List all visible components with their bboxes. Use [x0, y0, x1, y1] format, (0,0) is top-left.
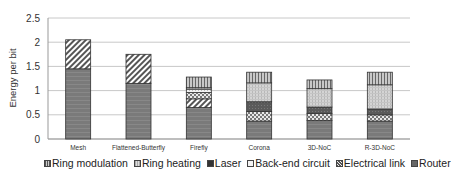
segment-electrical-link — [307, 113, 332, 120]
y-tick-label: 1.5 — [26, 61, 40, 72]
bar-corona — [247, 72, 272, 139]
legend-swatch-icon — [411, 160, 418, 167]
segment-ring-heating — [247, 83, 272, 102]
segment-router — [247, 121, 272, 139]
segment-laser — [367, 109, 392, 115]
x-tick-label: Firefly — [190, 144, 208, 152]
y-tick-label: 0 — [34, 134, 40, 145]
segment-router — [66, 69, 91, 139]
segment-router — [186, 108, 211, 139]
x-axis-ticks: MeshFlattened-ButterflyFireflyCorona3D-N… — [70, 144, 395, 152]
bar-firefly — [186, 77, 211, 139]
segment-ring-modulation — [307, 80, 332, 89]
legend-label: Ring heating — [142, 157, 201, 169]
legend-item-back-end-circuit: Back-end circuit — [247, 157, 330, 169]
segment-back-end-circuit — [186, 93, 211, 99]
legend-label: Ring modulation — [52, 157, 128, 169]
segment-electrical-link — [186, 99, 211, 108]
legend-item-ring-heating: Ring heating — [134, 157, 201, 169]
x-tick-label: Mesh — [70, 144, 86, 151]
segment-electrical-link — [247, 111, 272, 121]
legend-label: Electrical link — [344, 157, 405, 169]
bar-3d-noc — [307, 80, 332, 139]
legend: Ring modulationRing heatingLaserBack-end… — [44, 157, 451, 169]
y-axis-ticks: 00.511.522.5 — [26, 13, 40, 145]
legend-item-ring-modulation: Ring modulation — [44, 157, 128, 169]
segment-ring-modulation — [186, 77, 211, 88]
segment-ring-heating — [307, 89, 332, 107]
y-tick-label: 1 — [34, 85, 40, 96]
segment-router — [367, 121, 392, 139]
segment-electrical-link — [66, 40, 91, 69]
legend-item-router: Router — [411, 157, 451, 169]
x-tick-label: R-3D-NoC — [365, 144, 396, 151]
legend-item-electrical-link: Electrical link — [336, 157, 405, 169]
legend-swatch-icon — [134, 160, 141, 167]
y-axis-label: Energy per bit — [7, 48, 18, 108]
x-tick-label: Corona — [249, 144, 271, 151]
legend-swatch-icon — [207, 160, 214, 167]
y-tick-label: 2 — [34, 37, 40, 48]
gridlines — [48, 18, 410, 139]
segment-electrical-link — [126, 54, 151, 83]
segment-router — [307, 121, 332, 139]
legend-swatch-icon — [336, 160, 343, 167]
bars — [66, 40, 393, 139]
segment-router — [126, 83, 151, 139]
segment-ring-heating — [367, 85, 392, 109]
x-tick-label: Flattened-Butterfly — [112, 144, 166, 152]
segment-laser — [307, 107, 332, 113]
segment-ring-modulation — [247, 72, 272, 83]
bar-r-3d-noc — [367, 72, 392, 139]
legend-item-laser: Laser — [207, 157, 241, 169]
bar-mesh — [66, 40, 91, 139]
y-tick-label: 0.5 — [26, 109, 40, 120]
bar-flattened-butterfly — [126, 54, 151, 139]
legend-label: Router — [419, 157, 451, 169]
legend-label: Back-end circuit — [255, 157, 330, 169]
x-tick-label: 3D-NoC — [308, 144, 332, 151]
legend-swatch-icon — [44, 160, 51, 167]
segment-ring-modulation — [367, 72, 392, 85]
segment-laser — [247, 102, 272, 112]
segment-electrical-link — [367, 115, 392, 121]
legend-label: Laser — [215, 157, 241, 169]
segment-laser — [186, 89, 211, 92]
legend-swatch-icon — [247, 160, 254, 167]
y-tick-label: 2.5 — [26, 13, 40, 24]
